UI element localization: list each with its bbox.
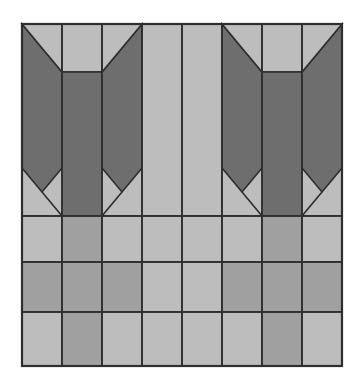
lower-cell-r1-c3: [102, 216, 142, 262]
quilt-block-pattern: [0, 0, 358, 388]
lower-cell-r3-c8: [302, 312, 342, 366]
lower-cell-r1-c5: [182, 216, 222, 262]
upper-body-dark-c2: [62, 72, 102, 216]
lower-cell-r2-c1: [22, 262, 62, 312]
upper-cap-light-c2: [62, 24, 102, 72]
upper-cell-light-c5: [182, 24, 222, 216]
lower-cell-r3-c7: [262, 312, 302, 366]
pattern-svg: [0, 0, 358, 388]
figure-canvas: [0, 0, 358, 388]
lower-cell-r1-c2: [62, 216, 102, 262]
lower-cell-r3-c3: [102, 312, 142, 366]
lower-cell-r3-c6: [222, 312, 262, 366]
upper-cell-light-c4: [142, 24, 182, 216]
upper-cap-light-c7: [262, 24, 302, 72]
lower-cell-r1-c4: [142, 216, 182, 262]
lower-cell-r2-c5: [182, 262, 222, 312]
lower-cell-r1-c1: [22, 216, 62, 262]
lower-cell-r3-c5: [182, 312, 222, 366]
lower-cell-r2-c6: [222, 262, 262, 312]
lower-cell-r1-c8: [302, 216, 342, 262]
lower-cell-r2-c8: [302, 262, 342, 312]
lower-cell-r2-c3: [102, 262, 142, 312]
lower-cell-r2-c4: [142, 262, 182, 312]
lower-cell-r2-c7: [262, 262, 302, 312]
upper-body-dark-c7: [262, 72, 302, 216]
lower-cell-r3-c4: [142, 312, 182, 366]
lower-cell-r3-c2: [62, 312, 102, 366]
lower-cell-r1-c6: [222, 216, 262, 262]
lower-cell-r3-c1: [22, 312, 62, 366]
lower-cell-r2-c2: [62, 262, 102, 312]
lower-cell-r1-c7: [262, 216, 302, 262]
